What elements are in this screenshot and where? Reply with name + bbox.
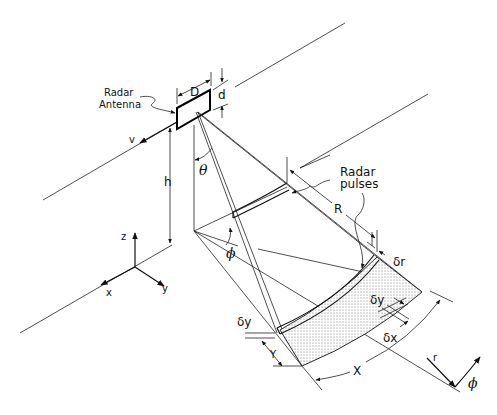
swath-length-arc <box>316 372 350 380</box>
axis-y-label: y <box>162 283 168 294</box>
velocity-arrow <box>140 122 177 143</box>
pulses-leader-2 <box>355 193 364 268</box>
illuminated-swath <box>280 257 422 366</box>
pulses-leader-1 <box>292 180 330 193</box>
range-label: R <box>334 202 342 216</box>
antenna-leader <box>140 96 175 113</box>
axis-z-label: z <box>121 231 126 242</box>
swath-length-label: X <box>353 364 361 378</box>
height-label: h <box>164 175 172 189</box>
polar-phi-label: ϕ <box>468 375 478 391</box>
polar-r-label: r <box>433 352 438 363</box>
sar-geometry-diagram: Radar Antenna D d v h θ ϕ Radar pulses R… <box>0 0 497 415</box>
range-resolution-label: δr <box>393 255 405 269</box>
ground-azimuth-label: ϕ <box>226 245 236 261</box>
antenna-label-line2: Antenna <box>99 99 141 110</box>
antenna-label-line1: Radar <box>104 87 134 98</box>
coordinate-axes <box>101 233 164 286</box>
azimuth-resolution-label: δx <box>383 331 397 345</box>
swath-width-label: Y <box>269 349 277 360</box>
look-angle-label: θ <box>199 162 208 178</box>
velocity-label: v <box>129 134 135 145</box>
ground-range-res-far-label: δy <box>370 293 384 307</box>
antenna-width-label: d <box>218 88 226 102</box>
swath-length-extension <box>430 291 453 302</box>
near-radar-pulse <box>233 183 289 218</box>
antenna-length-label: D <box>190 85 199 99</box>
axis-x-label: x <box>106 287 112 298</box>
ground-range-res-near-label: δy <box>237 315 251 329</box>
pulses-label-line2: pulses <box>340 177 378 191</box>
